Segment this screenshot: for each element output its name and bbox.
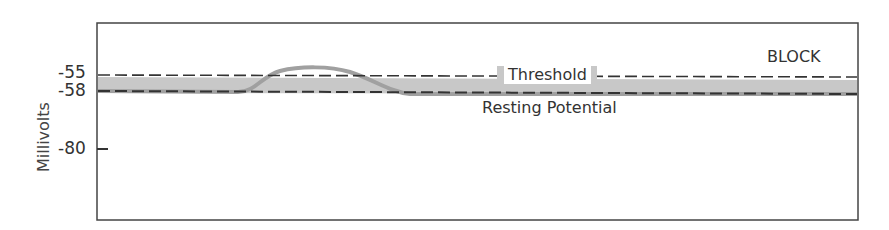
threshold-label: Threshold	[504, 65, 591, 84]
tick-label-55: -55	[58, 62, 86, 82]
plot-frame	[97, 23, 858, 220]
threshold-line	[98, 75, 857, 77]
tick-label-58: -58	[58, 80, 86, 100]
membrane-potential-diagram	[0, 0, 889, 230]
block-label: BLOCK	[767, 47, 821, 66]
resting-potential-label: Resting Potential	[482, 98, 617, 117]
tick-label-80: -80	[58, 138, 86, 158]
y-axis-label: Millivolts	[34, 102, 53, 172]
